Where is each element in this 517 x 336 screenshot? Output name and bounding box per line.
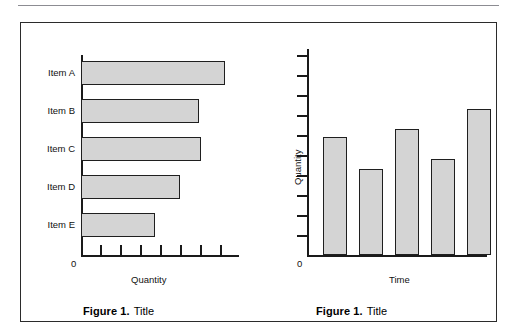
right-chart-x-axis <box>307 255 487 257</box>
left-chart-x-tick <box>200 245 202 255</box>
left-chart-x-tick <box>220 245 222 255</box>
right-chart-y-axis-title: Quantity <box>293 150 303 185</box>
right-chart-y-tick <box>297 95 307 97</box>
left-chart-x-tick <box>120 245 122 255</box>
left-chart-x-axis-title: Quantity <box>131 275 166 285</box>
left-caption-label: Figure 1. <box>83 305 130 317</box>
left-chart-origin-label: 0 <box>71 259 76 269</box>
left-chart-category-label: Item D <box>25 182 75 192</box>
left-chart-x-tick <box>160 245 162 255</box>
left-chart-category-label: Item B <box>25 106 75 116</box>
bar-item-c <box>81 137 201 161</box>
bar-time-2 <box>359 169 383 255</box>
bar-item-e <box>81 213 155 237</box>
right-chart-y-tick <box>297 75 307 77</box>
right-chart-y-tick <box>297 115 307 117</box>
bar-time-4 <box>431 159 455 255</box>
right-chart-caption: Figure 1.Title <box>316 306 387 317</box>
top-divider-rule <box>18 5 499 6</box>
page-root: Item A Item B Item C Item D Item E 0 Qua… <box>0 0 517 336</box>
figure-1-right: 0 Quantity Time Figure 1.Title <box>279 23 498 321</box>
right-chart-origin-label: 0 <box>297 259 302 269</box>
bar-time-5 <box>467 109 491 255</box>
right-chart-y-tick <box>297 215 307 217</box>
right-chart-y-tick <box>297 55 307 57</box>
figure-panel-box: Item A Item B Item C Item D Item E 0 Qua… <box>20 22 497 322</box>
bar-item-d <box>81 175 180 199</box>
left-chart-x-tick <box>100 245 102 255</box>
left-chart-category-label: Item C <box>25 144 75 154</box>
bar-time-3 <box>395 129 419 255</box>
right-chart-y-tick <box>297 135 307 137</box>
right-chart-x-axis-title: Time <box>389 275 410 285</box>
right-chart-y-tick <box>297 235 307 237</box>
left-caption-title: Title <box>134 305 154 317</box>
left-chart-x-tick <box>180 245 182 255</box>
right-caption-title: Title <box>367 305 387 317</box>
left-chart-x-axis <box>81 255 239 257</box>
bar-item-a <box>81 61 225 85</box>
right-caption-label: Figure 1. <box>316 305 363 317</box>
right-chart-y-tick <box>297 195 307 197</box>
figure-1-left: Item A Item B Item C Item D Item E 0 Qua… <box>21 23 279 321</box>
left-chart-x-tick <box>140 245 142 255</box>
left-chart-category-label: Item A <box>25 68 75 78</box>
left-chart-category-label: Item E <box>25 220 75 230</box>
left-chart-caption: Figure 1.Title <box>83 306 154 317</box>
right-chart-y-axis <box>307 49 309 257</box>
bar-item-b <box>81 99 199 123</box>
bar-time-1 <box>323 137 347 255</box>
